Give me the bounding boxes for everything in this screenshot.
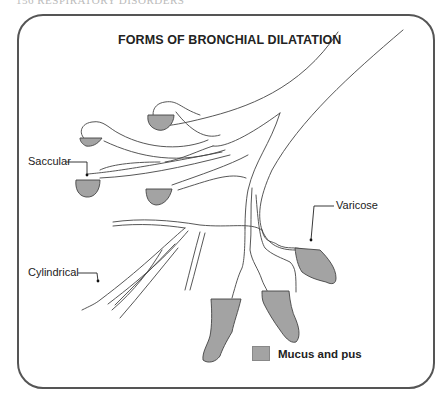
- bronchial-tree-illustration: [0, 0, 440, 395]
- label-varicose: Varicose: [336, 199, 378, 211]
- legend: Mucus and pus: [252, 346, 362, 361]
- label-cylindrical: Cylindrical: [28, 266, 79, 278]
- legend-swatch-mucus: [252, 346, 270, 361]
- legend-label: Mucus and pus: [278, 348, 362, 360]
- figure-title: FORMS OF BRONCHIAL DILATATION: [118, 33, 341, 47]
- label-saccular: Saccular: [28, 155, 71, 167]
